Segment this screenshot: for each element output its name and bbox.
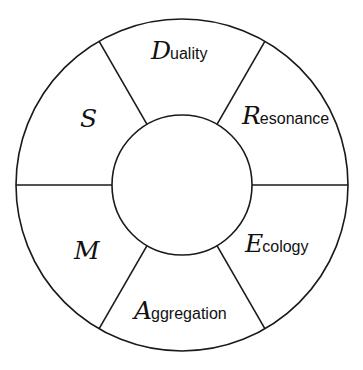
segment-label-resonance: Resonance — [242, 103, 329, 128]
segment-initial: E — [245, 229, 262, 258]
segment-initial: M — [74, 236, 99, 265]
segment-initial: A — [134, 296, 151, 325]
inner-circle — [112, 115, 252, 255]
segment-label-s: S — [80, 106, 96, 131]
divider-upper-left — [99, 41, 147, 124]
segment-label-m: M — [74, 238, 99, 263]
segment-label-duality: Duality — [151, 38, 207, 63]
segment-label-aggregation: Aggregation — [134, 298, 227, 323]
segment-initial: R — [242, 101, 260, 130]
segment-text: esonance — [260, 110, 329, 127]
segment-text: ggregation — [151, 305, 227, 322]
segment-initial: D — [151, 36, 170, 65]
segment-text: cology — [262, 238, 308, 255]
segment-label-ecology: Ecology — [245, 231, 309, 256]
segment-text: uality — [170, 45, 207, 62]
segment-initial: S — [80, 104, 96, 133]
